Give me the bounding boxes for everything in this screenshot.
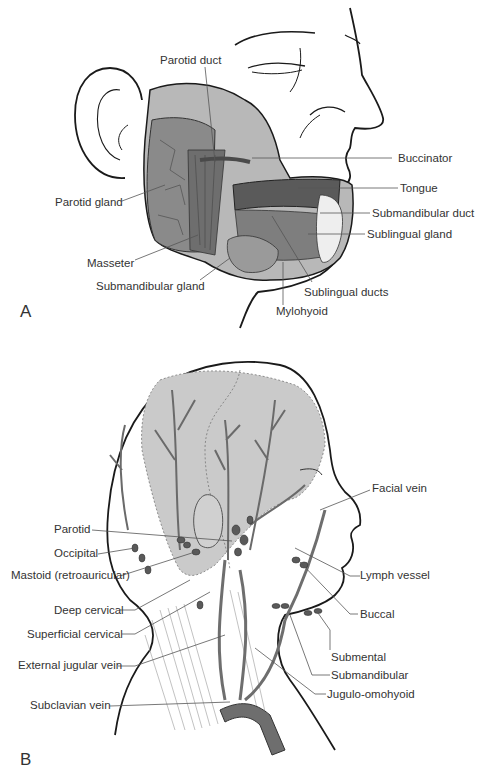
label-sublingual-ducts: Sublingual ducts — [304, 287, 388, 299]
label-sublingual-gland: Sublingual gland — [367, 229, 452, 241]
label-masseter: Masseter — [87, 258, 134, 270]
label-lymph-vessel: Lymph vessel — [360, 570, 430, 582]
panel-a-salivary-glands: Parotid duct Buccinator Tongue Parotid g… — [0, 0, 482, 330]
panel-letter-b: B — [20, 750, 31, 770]
label-deep-cervical: Deep cervical — [54, 605, 124, 617]
label-parotid: Parotid — [54, 524, 90, 536]
panel-letter-a: A — [20, 302, 31, 322]
label-mastoid-retroauricular: Mastoid (retroauricular) — [11, 570, 130, 582]
label-subclavian-vein: Subclavian vein — [30, 700, 111, 712]
label-superficial-cervical: Superficial cervical — [27, 629, 123, 641]
panel-a-illustration — [0, 0, 482, 330]
label-parotid-duct: Parotid duct — [160, 55, 221, 67]
label-tongue: Tongue — [400, 183, 438, 195]
label-facial-vein: Facial vein — [372, 483, 427, 495]
label-jugulo-omohyoid: Jugulo-omohyoid — [327, 689, 415, 701]
label-buccal: Buccal — [360, 609, 395, 621]
label-external-jugular-vein: External jugular vein — [18, 660, 122, 672]
label-occipital: Occipital — [54, 548, 98, 560]
label-submandibular-gland: Submandibular gland — [96, 281, 205, 293]
label-mylohyoid: Mylohyoid — [276, 306, 328, 318]
label-parotid-gland: Parotid gland — [55, 197, 123, 209]
label-submandibular: Submandibular — [331, 670, 408, 682]
label-buccinator: Buccinator — [398, 153, 452, 165]
label-submental: Submental — [331, 652, 386, 664]
label-submandibular-duct: Submandibular duct — [372, 208, 474, 220]
panel-b-lymphatic-drainage: Facial vein Parotid Occipital Mastoid (r… — [0, 330, 482, 781]
